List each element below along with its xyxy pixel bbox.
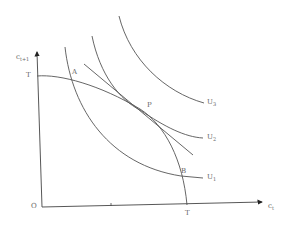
indifference-curve-u3 xyxy=(119,16,204,103)
point-t-y-label: T xyxy=(26,72,31,79)
diagram-canvas xyxy=(0,0,291,226)
point-p-label: P xyxy=(147,102,152,109)
y-axis-label: ct+1 xyxy=(16,54,29,61)
point-t-x-label: T xyxy=(185,210,190,217)
indifference-curve-u1 xyxy=(65,47,203,178)
x-axis xyxy=(42,202,262,207)
curve-u2-label: U2 xyxy=(207,134,216,141)
point-a-label: A xyxy=(72,69,77,76)
point-b-label: B xyxy=(181,168,186,175)
x-axis-label: ct xyxy=(268,203,274,210)
origin-label: O xyxy=(31,203,37,210)
indifference-curve-u2 xyxy=(92,36,203,138)
y-axis xyxy=(37,52,42,207)
curve-u3-label: U3 xyxy=(207,99,216,106)
ppf-curve xyxy=(37,76,187,205)
curve-u1-label: U1 xyxy=(207,174,216,181)
